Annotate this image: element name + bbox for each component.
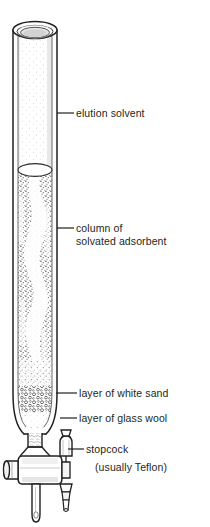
label-stopcock: stopcock xyxy=(86,443,128,456)
white-sand-layer xyxy=(14,386,54,412)
label-glass-wool: layer of glass wool xyxy=(79,412,167,425)
stopcock-plug[interactable] xyxy=(60,430,72,511)
stopcock-handle[interactable] xyxy=(4,461,19,479)
drip-tip xyxy=(32,484,40,522)
glass-wool-plug xyxy=(29,433,41,446)
label-teflon-note: (usually Teflon) xyxy=(95,461,167,474)
label-column-of: column of xyxy=(76,222,122,235)
label-elution-solvent: elution solvent xyxy=(76,107,145,120)
label-white-sand: layer of white sand xyxy=(79,387,168,400)
column-tube xyxy=(13,22,57,448)
column-neck xyxy=(28,433,42,447)
chromatography-column-figure: elution solvent column of solvated adsor… xyxy=(0,0,210,527)
ground-glass-rim xyxy=(13,22,57,39)
solvent-meniscus xyxy=(18,164,52,177)
label-solvated-adsorbent: solvated adsorbent xyxy=(76,235,167,248)
